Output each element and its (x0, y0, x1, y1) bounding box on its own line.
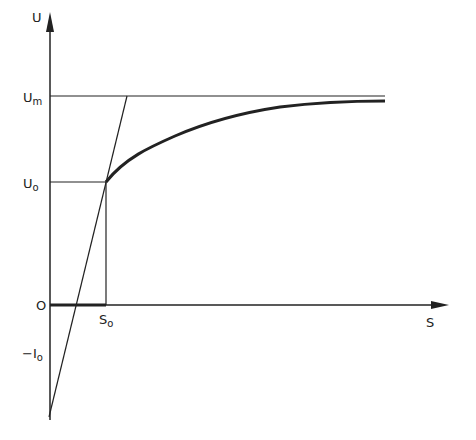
u-axis-arrow-icon (46, 12, 54, 32)
i0-label: −Io (22, 346, 43, 363)
s-axis-arrow-icon (431, 301, 449, 309)
u0-label: Uo (23, 176, 39, 193)
um-label: Um (23, 90, 42, 107)
saturation-curve (106, 101, 385, 182)
u-axis-label: U (32, 10, 42, 25)
diagram-canvas: U S O Um Uo So −Io (0, 0, 476, 440)
origin-label: O (36, 298, 46, 313)
tangent-line (49, 96, 127, 417)
s-axis-label: S (426, 315, 434, 330)
s0-label: So (99, 312, 113, 329)
